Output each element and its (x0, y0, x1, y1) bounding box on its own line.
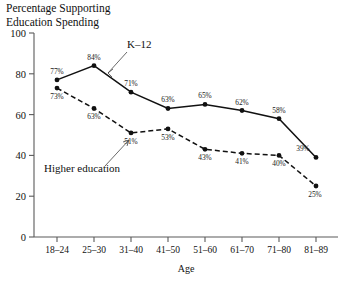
data-point (240, 108, 245, 113)
data-point (314, 155, 319, 160)
data-point-label: 65% (198, 91, 212, 100)
data-point-label: 63% (87, 112, 101, 121)
data-point-label: 77% (50, 67, 64, 76)
data-point (129, 90, 134, 95)
data-point-label: 73% (50, 92, 64, 101)
data-point-label: 43% (198, 153, 212, 162)
data-point (55, 86, 60, 91)
y-tick-label: 40 (16, 150, 27, 161)
data-point-label: 25% (308, 190, 322, 199)
x-tick-label: 71–80 (267, 245, 291, 255)
data-point (203, 102, 208, 107)
data-point (314, 184, 319, 189)
x-axis-ticks (57, 237, 316, 242)
data-point-label: 62% (235, 98, 249, 107)
y-axis-ticks (29, 33, 34, 237)
y-tick-label: 0 (21, 232, 26, 243)
data-point-label: 41% (235, 157, 249, 166)
x-axis-title: Age (178, 263, 195, 274)
x-tick-label: 61–70 (230, 245, 254, 255)
data-point-label: 39% (296, 144, 310, 153)
annotation-leader-k12 (108, 52, 127, 73)
data-point-label: 58% (272, 106, 286, 115)
y-tick-label: 100 (10, 28, 26, 39)
data-point (277, 153, 282, 158)
data-point (203, 147, 208, 152)
x-tick-label: 41–50 (156, 245, 180, 255)
y-tick-label: 20 (16, 191, 27, 202)
x-tick-label: 51–60 (193, 245, 217, 255)
data-point-label: 40% (272, 159, 286, 168)
data-point (129, 131, 134, 136)
data-point-label: 71% (124, 79, 138, 88)
data-point (92, 106, 97, 111)
data-point-label: 51% (124, 137, 138, 146)
annotation-label-k12: K–12 (127, 38, 151, 50)
data-point-label: 84% (87, 53, 101, 62)
data-point (55, 78, 60, 83)
data-point (92, 63, 97, 68)
x-axis-tick-labels: 18–24 25–30 31–40 41–50 51–60 61–70 71–8… (45, 245, 328, 255)
x-tick-label: 25–30 (82, 245, 106, 255)
chart-canvas: 100 80 60 40 20 0 18–24 25–30 31–40 41–5… (0, 0, 353, 285)
data-point (277, 116, 282, 121)
data-point-label: 53% (161, 133, 175, 142)
data-point-label: 63% (161, 95, 175, 104)
data-point (166, 126, 171, 131)
data-point (240, 151, 245, 156)
y-tick-label: 60 (16, 110, 27, 121)
y-axis-tick-labels: 100 80 60 40 20 0 (10, 28, 26, 243)
data-point (166, 106, 171, 111)
x-tick-label: 18–24 (45, 245, 69, 255)
chart-figure: Percentage Supporting Education Spending… (0, 0, 353, 285)
x-tick-label: 31–40 (119, 245, 143, 255)
x-tick-label: 81–89 (304, 245, 328, 255)
annotation-label-higher-education: Higher education (44, 162, 121, 174)
y-tick-label: 80 (16, 69, 27, 80)
